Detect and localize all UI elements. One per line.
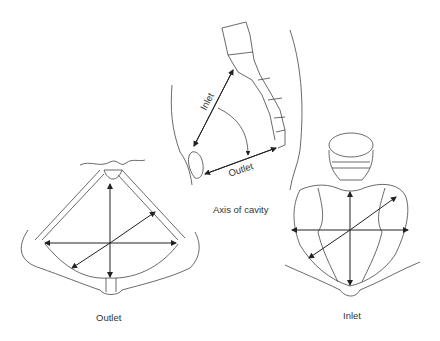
inlet-caption: Inlet [343, 310, 361, 321]
pelvis-illustration [0, 0, 440, 341]
inlet-pelvis [285, 133, 420, 296]
pelvis-diagram: Inlet Outlet Axis of cavity Outlet Inlet [0, 0, 440, 341]
axis-of-cavity-caption: Axis of cavity [213, 204, 268, 215]
outlet-caption: Outlet [96, 312, 121, 323]
